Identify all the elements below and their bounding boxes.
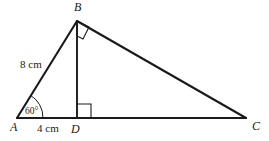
segment-bc [77,21,246,118]
geometry-figure: A B C D 8 cm 4 cm 60° [0,0,269,141]
right-angle-marker-b [77,21,89,39]
vertex-label-d: D [70,122,80,136]
angle-label-a: 60° [25,106,39,116]
measure-label-ad: 4 cm [37,122,59,134]
vertex-label-a: A [9,120,18,134]
vertex-label-c: C [252,119,261,133]
geometry-canvas: A B C D 8 cm 4 cm 60° [0,0,269,141]
measure-label-ab: 8 cm [20,58,42,70]
vertex-label-b: B [74,0,82,14]
right-angle-marker-d [77,104,91,118]
